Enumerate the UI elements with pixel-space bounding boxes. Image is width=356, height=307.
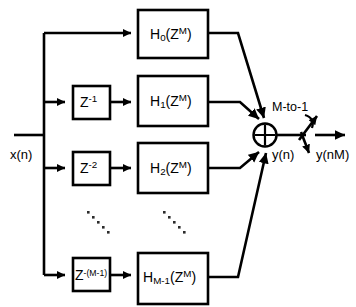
wire-hm1-to-summer bbox=[208, 153, 266, 277]
ellipsis-left bbox=[87, 211, 110, 234]
delay-label-1: Z-1 bbox=[80, 94, 97, 109]
diagram-canvas bbox=[0, 0, 356, 307]
wire-h1-to-summer bbox=[208, 102, 259, 119]
decimator-switch-label: M-to-1 bbox=[272, 101, 308, 114]
filter-label-h2: H2(ZM) bbox=[150, 160, 192, 177]
wire-h0-to-summer bbox=[208, 33, 264, 118]
polyphase-filter-bank-diagram: Z-1 Z-2 Z-(M-1) H0(ZM) H1(ZM) H2(ZM) HM-… bbox=[0, 0, 356, 307]
ellipsis-right bbox=[163, 211, 186, 234]
summing-junction bbox=[254, 124, 277, 147]
filter-label-h0: H0(ZM) bbox=[150, 26, 192, 43]
final-output-label: y(nM) bbox=[316, 148, 349, 161]
input-signal-label: x(n) bbox=[10, 148, 32, 161]
delay-label-2: Z-2 bbox=[80, 160, 97, 175]
sum-output-label: y(n) bbox=[272, 148, 294, 161]
decimator-switch bbox=[299, 115, 317, 153]
filter-label-h1: H1(ZM) bbox=[150, 93, 192, 110]
wire-h2-to-summer bbox=[208, 152, 259, 168]
delay-label-m1: Z-(M-1) bbox=[75, 268, 107, 282]
filter-label-hm1: HM-1(ZM) bbox=[143, 269, 196, 286]
